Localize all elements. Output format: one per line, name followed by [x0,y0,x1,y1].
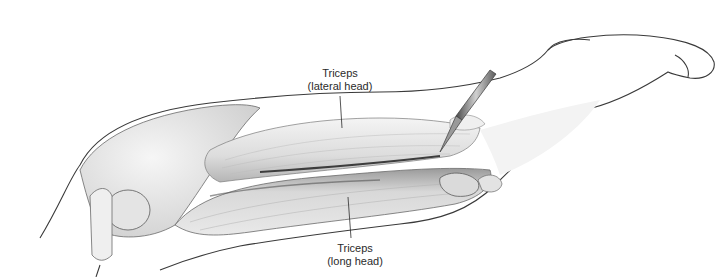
label-line-2: (lateral head) [300,80,380,93]
label-triceps-lateral-head: Triceps (lateral head) [300,67,380,93]
forearm [480,100,600,175]
shoulder [80,105,260,261]
label-line-1: Triceps [300,67,380,80]
label-triceps-long-head: Triceps (long head) [315,242,395,268]
label-line-1: Triceps [315,242,395,255]
arm-drawing [0,0,721,277]
label-line-2: (long head) [315,255,395,268]
anatomical-illustration: Triceps (lateral head) Triceps (long hea… [0,0,721,277]
